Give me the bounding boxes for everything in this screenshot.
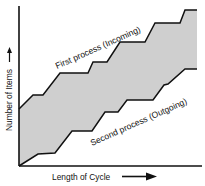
y-axis-arrow-icon [7, 47, 12, 62]
y-axis-label: Number of Items [4, 69, 14, 131]
queue-diagram: First process (Incoming) Second process … [0, 0, 205, 186]
inventory-band [19, 10, 197, 166]
x-axis-label: Length of Cycle [52, 172, 111, 182]
x-axis-arrow-icon [122, 173, 157, 181]
